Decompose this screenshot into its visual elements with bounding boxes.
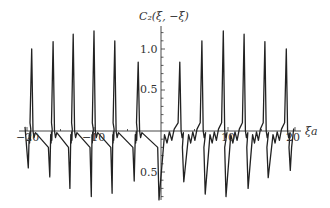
y-axis-title: C₂(ξ, −ξ) [139,10,189,23]
y-tick-label-m05: 0.5 [140,166,158,179]
data-series-curve [25,31,294,200]
x-tick-label-10: 10 [221,131,235,144]
y-tick-label-1: 1.0 [140,43,158,56]
x-tick-label-m20: −20 [16,131,39,144]
x-axis-title: ξa [305,125,318,138]
y-tick-label-05: 0.5 [140,83,158,96]
x-tick-label-m10: −10 [82,131,105,144]
line-chart: C₂(ξ, −ξ) ξa 1.0 0.5 0.5 −20 −10 10 20 [0,0,330,208]
x-tick-label-20: 20 [286,131,300,144]
